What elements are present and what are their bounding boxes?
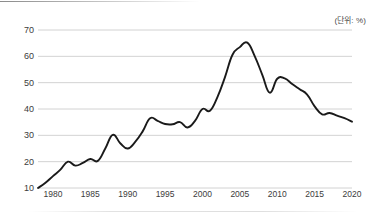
data-series-line [38,42,352,188]
x-tick-1980: 1980 [43,189,62,199]
x-axis-tick-labels: 198019851990199520002005201020152020 [38,189,352,205]
chart-figure: (단위: %) 10203040506070 19801985199019952… [0,0,376,217]
y-tick-40: 40 [24,104,34,114]
gridlines [38,30,352,188]
y-tick-50: 50 [24,78,34,88]
x-tick-2010: 2010 [268,189,287,199]
unit-annotation: (단위: %) [334,14,366,25]
y-tick-60: 60 [24,51,34,61]
plot-area [38,30,352,188]
top-divider-rule [0,1,200,2]
y-tick-70: 70 [24,25,34,35]
y-tick-20: 20 [24,157,34,167]
x-tick-1990: 1990 [118,189,137,199]
x-tick-2005: 2005 [230,189,249,199]
x-tick-1985: 1985 [81,189,100,199]
y-tick-10: 10 [24,183,34,193]
line-chart-svg [38,30,352,188]
y-axis-tick-labels: 10203040506070 [0,30,34,188]
bottom-divider-rule [28,211,358,212]
x-tick-1995: 1995 [156,189,175,199]
y-tick-30: 30 [24,130,34,140]
x-tick-2020: 2020 [343,189,362,199]
x-tick-2015: 2015 [305,189,324,199]
x-tick-2000: 2000 [193,189,212,199]
